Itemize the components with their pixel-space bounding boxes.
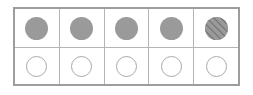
- grid-cell-r2c1[interactable]: [15, 48, 60, 84]
- grid-cell-r1c2[interactable]: [60, 9, 105, 47]
- grid-cell-r1c1[interactable]: [15, 9, 60, 47]
- empty-circle-icon: [71, 56, 92, 77]
- grid-cell-r1c5[interactable]: [194, 9, 238, 47]
- grid-cell-r2c3[interactable]: [105, 48, 150, 84]
- empty-circle-icon: [161, 56, 182, 77]
- grid-cell-r2c2[interactable]: [60, 48, 105, 84]
- empty-circle-icon: [116, 56, 137, 77]
- figure-root: [0, 0, 253, 95]
- circle-grid-table: [13, 7, 240, 86]
- filled-circle-icon: [160, 17, 183, 40]
- empty-circle-icon: [26, 56, 47, 77]
- grid-row-top: [15, 9, 238, 48]
- filled-circle-icon: [115, 17, 138, 40]
- empty-circle-icon: [206, 56, 227, 77]
- grid-cell-r2c5[interactable]: [194, 48, 238, 84]
- filled-circle-icon: [70, 17, 93, 40]
- grid-cell-r1c3[interactable]: [105, 9, 150, 47]
- grid-cell-r2c4[interactable]: [149, 48, 194, 84]
- filled-circle-icon: [25, 17, 48, 40]
- grid-row-bottom: [15, 48, 238, 84]
- hatched-circle-icon: [205, 17, 228, 40]
- grid-cell-r1c4[interactable]: [149, 9, 194, 47]
